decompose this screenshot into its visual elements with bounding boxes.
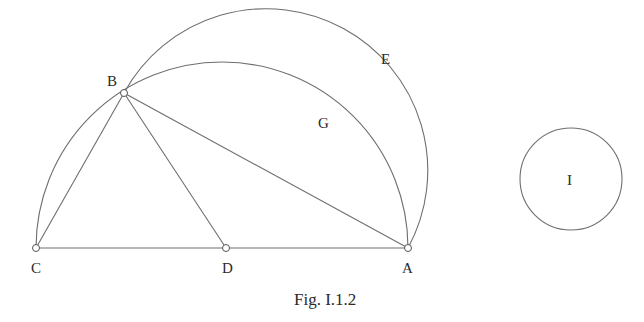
segment-bc <box>36 93 124 248</box>
label-a: A <box>402 260 413 276</box>
point-d <box>223 245 230 252</box>
segment-ba <box>124 93 408 248</box>
label-d: D <box>222 260 233 276</box>
figure-caption: Fig. I.1.2 <box>294 290 356 309</box>
label-i: I <box>567 172 572 188</box>
segment-bd <box>124 93 226 248</box>
label-c: C <box>31 260 41 276</box>
point-b <box>121 90 128 97</box>
point-a <box>405 245 412 252</box>
arc-bea <box>124 9 428 248</box>
point-c <box>33 245 40 252</box>
arc-cbga <box>36 62 408 248</box>
label-b: B <box>107 73 117 89</box>
label-e: E <box>381 51 390 67</box>
geometry-figure: B C D A E G I Fig. I.1.2 <box>0 0 644 322</box>
label-g: G <box>318 115 329 131</box>
